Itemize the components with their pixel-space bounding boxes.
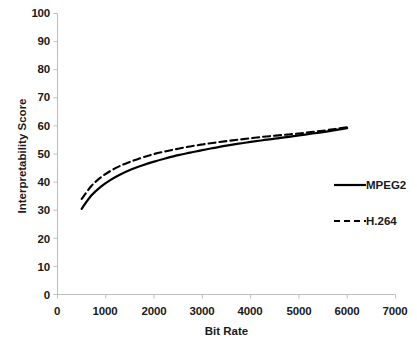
series-line-mpeg2 [82, 128, 348, 209]
series-line-h-264 [82, 127, 348, 199]
legend-label-h264: H.264 [366, 215, 397, 227]
y-tick-label: 10 [16, 261, 50, 273]
x-axis-title: Bit Rate [0, 325, 417, 337]
chart-container: 100 90 80 70 60 50 40 30 20 10 0 0 1000 … [0, 0, 417, 347]
y-tick-label: 100 [16, 7, 50, 19]
axis-lines [54, 14, 396, 299]
y-tick-label: 0 [16, 289, 50, 301]
data-series-group [82, 127, 348, 208]
x-tick-label: 0 [35, 305, 79, 317]
x-tick-label: 1000 [83, 305, 127, 317]
legend-label-mpeg2: MPEG2 [366, 179, 406, 191]
x-tick-label: 2000 [132, 305, 176, 317]
x-tick-label: 3000 [180, 305, 224, 317]
x-tick-label: 6000 [325, 305, 369, 317]
x-tick-label: 4000 [228, 305, 272, 317]
x-tick-label: 5000 [277, 305, 321, 317]
chart-plot-area [0, 0, 417, 347]
y-tick-label: 90 [16, 35, 50, 47]
y-axis-title: Interpretability Score [16, 71, 28, 241]
x-tick-label: 7000 [373, 305, 417, 317]
legend-line-samples [334, 185, 366, 221]
